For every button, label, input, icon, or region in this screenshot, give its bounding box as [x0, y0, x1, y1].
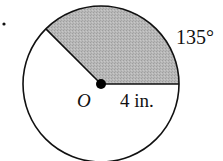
radius-label: 4 in. [120, 90, 154, 111]
shaded-sector [46, 6, 179, 84]
center-label: O [77, 90, 91, 111]
center-point [96, 79, 106, 89]
circle-sector-diagram: O 4 in. 135° [0, 0, 223, 161]
angle-label: 135° [176, 26, 214, 48]
diagram-canvas: O 4 in. 135° [0, 0, 223, 161]
item-marker-dot [2, 22, 5, 25]
